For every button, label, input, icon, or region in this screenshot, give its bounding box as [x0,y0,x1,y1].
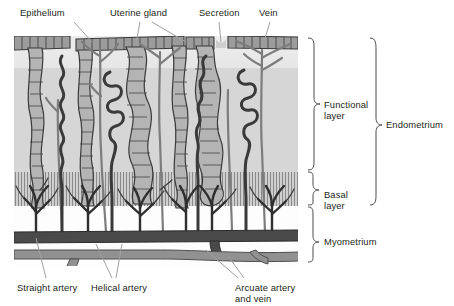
endometrium-diagram [0,0,454,306]
bracket-basal-layer [308,172,319,205]
label-myometrium: Myometrium [324,237,377,248]
bracket-endometrium [370,38,382,205]
figure-canvas: Epithelium Uterine gland Secretion Vein … [0,0,454,306]
label-vein: Vein [259,8,278,19]
epithelium-layer [14,36,298,51]
label-secretion: Secretion [199,8,240,19]
bracket-functional-layer [308,38,320,170]
bracket-myometrium [308,207,319,262]
brackets [308,38,382,262]
label-basal-layer: Basal layer [324,190,348,211]
label-straight-artery: Straight artery [17,283,77,294]
label-epithelium: Epithelium [20,8,65,19]
label-functional-layer: Functional layer [324,100,368,121]
label-helical-artery: Helical artery [91,283,147,294]
label-endometrium: Endometrium [386,120,443,131]
arcuate-artery [14,230,300,243]
label-uterine-gland: Uterine gland [110,8,167,19]
label-arcuate-artery-and-vein: Arcuate artery and vein [235,283,295,304]
